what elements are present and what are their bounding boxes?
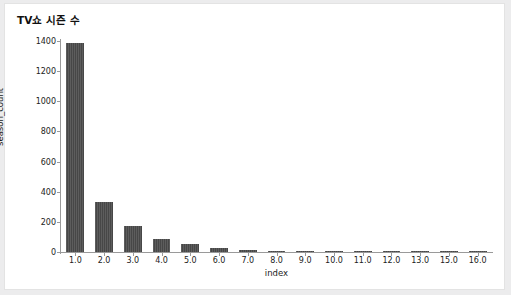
x-axis-tick-label: 13.0 <box>411 256 429 265</box>
x-axis-tick-mark <box>219 253 220 256</box>
x-axis-tick-label: 6.0 <box>213 256 226 265</box>
x-axis-tick-label: 5.0 <box>184 256 197 265</box>
x-axis-tick-label: 3.0 <box>126 256 139 265</box>
y-axis-tick-label: 1400 <box>36 37 56 46</box>
y-axis-tick-mark <box>57 192 60 193</box>
x-axis-tick-mark <box>75 253 76 256</box>
y-axis-tick-label: 1000 <box>36 97 56 106</box>
bar <box>296 251 314 252</box>
y-axis-tick-label: 400 <box>41 187 56 196</box>
y-axis-label: season_count <box>0 88 5 146</box>
x-axis-tick-label: 16.0 <box>469 256 487 265</box>
x-axis-tick-label: 8.0 <box>270 256 283 265</box>
chart-figure: TV쇼 시즌 수 0200400600800100012001400 seaso… <box>4 3 505 290</box>
bar <box>383 251 401 252</box>
x-axis-tick-mark <box>277 253 278 256</box>
x-axis-tick-mark <box>449 253 450 256</box>
x-axis-tick-mark <box>391 253 392 256</box>
y-axis-tick-label: 200 <box>41 217 56 226</box>
bar <box>469 251 487 252</box>
y-axis-tick-label: 600 <box>41 157 56 166</box>
x-axis-label: index <box>265 268 288 278</box>
y-axis-tick-mark <box>57 222 60 223</box>
x-axis-tick-mark <box>334 253 335 256</box>
x-axis-tick-mark <box>478 253 479 256</box>
bar <box>181 244 199 252</box>
x-axis-tick-label: 7.0 <box>241 256 254 265</box>
x-axis-tick-mark <box>248 253 249 256</box>
bar <box>354 251 372 252</box>
x-axis-tick-label: 2.0 <box>98 256 111 265</box>
bar <box>124 226 142 252</box>
x-axis-tick-mark <box>104 253 105 256</box>
x-axis-tick-label: 11.0 <box>354 256 372 265</box>
plot-area <box>61 41 492 252</box>
y-axis-tick-label: 1200 <box>36 67 56 76</box>
bar <box>66 43 84 252</box>
y-axis-tick-labels: 0200400600800100012001400 <box>5 4 56 295</box>
bar <box>411 251 429 252</box>
bar <box>153 239 171 252</box>
bar <box>210 248 228 252</box>
bar <box>95 202 113 252</box>
y-axis-tick-mark <box>57 101 60 102</box>
bar <box>239 250 257 252</box>
x-axis-tick-label: 10.0 <box>325 256 343 265</box>
x-axis-tick-label: 4.0 <box>155 256 168 265</box>
x-axis-tick-label: 15.0 <box>440 256 458 265</box>
bar <box>268 251 286 253</box>
x-axis-tick-mark <box>190 253 191 256</box>
x-axis-tick-mark <box>162 253 163 256</box>
y-axis-tick-mark <box>57 131 60 132</box>
y-axis-tick-mark <box>57 71 60 72</box>
x-axis-tick-label: 12.0 <box>383 256 401 265</box>
x-axis-tick-mark <box>363 253 364 256</box>
x-axis-tick-mark <box>133 253 134 256</box>
x-axis-tick-label: 1.0 <box>69 256 82 265</box>
bar <box>325 251 343 252</box>
y-axis-tick-label: 0 <box>51 248 56 257</box>
x-axis-tick-mark <box>305 253 306 256</box>
y-axis-tick-mark <box>57 252 60 253</box>
y-axis-tick-mark <box>57 162 60 163</box>
x-axis-tick-label: 9.0 <box>299 256 312 265</box>
y-axis-tick-mark <box>57 41 60 42</box>
y-axis-tick-label: 800 <box>41 127 56 136</box>
x-axis-tick-mark <box>420 253 421 256</box>
bar <box>440 251 458 252</box>
